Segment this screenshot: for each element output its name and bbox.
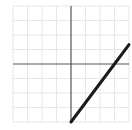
axes — [13, 6, 129, 122]
coordinate-plane — [0, 0, 132, 130]
